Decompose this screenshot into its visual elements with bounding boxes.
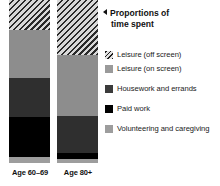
bar-segment-paid-work[interactable] (9, 117, 50, 157)
bar-segment-volunteering[interactable] (57, 159, 98, 163)
legend-label-leisure-on-screen: Leisure (on screen) (117, 64, 181, 73)
bar-segment-housework-errands[interactable] (9, 78, 50, 117)
chart-title-line-1: Proportions of (110, 8, 169, 18)
bar-segment-housework-errands[interactable] (57, 116, 98, 153)
x-axis-label-age-80-plus: Age 80+ (49, 168, 107, 177)
legend: Proportions of time spent Leisure (off s… (103, 0, 220, 186)
legend-swatch-volunteering-caregiving (105, 125, 113, 133)
chart-title-line-2: time spent (111, 19, 220, 30)
legend-swatch-paid-work (105, 105, 113, 113)
legend-swatch-housework-errands (105, 85, 113, 93)
legend-label-paid-work: Paid work (117, 104, 150, 113)
plot-area: Age 60–69 Age 80+ (0, 0, 100, 186)
legend-label-housework-errands: Housework and errands (117, 84, 197, 93)
legend-swatch-leisure-off-screen (105, 51, 113, 59)
legend-label-volunteering-caregiving: Volunteering and caregiving (117, 124, 209, 133)
bar-segment-leisure-on-screen[interactable] (9, 30, 50, 78)
chart-title: Proportions of time spent (103, 8, 220, 29)
bar-column-age-60-69[interactable] (9, 0, 50, 163)
legend-label-leisure-off-screen: Leisure (off screen) (117, 50, 181, 59)
triangle-left-icon (103, 9, 107, 15)
bar-segment-leisure-on-screen[interactable] (57, 55, 98, 116)
bar-column-age-80-plus[interactable] (57, 0, 98, 163)
bar-segment-leisure-off-screen[interactable] (9, 0, 50, 30)
bar-segment-leisure-off-screen[interactable] (57, 0, 98, 55)
bar-segment-volunteering[interactable] (9, 157, 50, 163)
stacked-bar-chart: Age 60–69 Age 80+ Proportions of time sp… (0, 0, 220, 186)
legend-swatch-leisure-on-screen (105, 65, 113, 73)
